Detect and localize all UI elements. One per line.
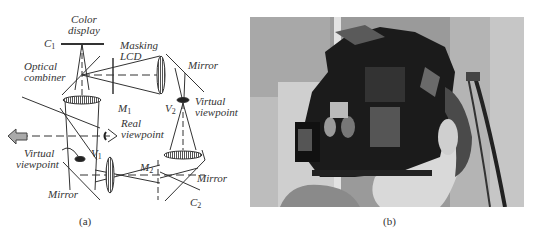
label-mirror-left: Mirror	[48, 189, 78, 200]
arrow-left-icon	[8, 129, 27, 144]
label-masking-lcd: Masking LCD	[120, 40, 158, 62]
label-mirror-top: Mirror	[188, 60, 218, 71]
photo-rendering	[250, 17, 524, 207]
label-v2: V2	[165, 103, 176, 117]
caption-b: (b)	[383, 215, 396, 227]
label-virtual-viewpoint-right: Virtual viewpoint	[195, 96, 238, 118]
label-m2: M2	[140, 162, 153, 176]
label-c1: C1	[44, 38, 55, 52]
label-m1: M1	[118, 103, 131, 117]
hmd-photograph	[250, 17, 524, 207]
lens-upper-right	[157, 56, 165, 94]
label-v1: V1	[91, 148, 102, 162]
optical-layout-drawing	[0, 0, 240, 236]
label-mirror-right: Mirror	[197, 173, 227, 184]
label-virtual-viewpoint-left: Virtual viewpoint	[16, 148, 59, 170]
optical-diagram: Color display C1 Masking LCD Optical com…	[0, 0, 240, 236]
lens-lower-right	[164, 151, 202, 159]
label-c2: C2	[190, 197, 201, 211]
label-optical-combiner: Optical combiner	[24, 61, 66, 83]
label-real-viewpoint: Real viewpoint	[121, 118, 164, 140]
label-color-display: Color display	[68, 14, 100, 36]
lens-lower-left	[106, 157, 114, 193]
lens-upper-left	[63, 96, 101, 104]
caption-a: (a)	[79, 215, 91, 227]
